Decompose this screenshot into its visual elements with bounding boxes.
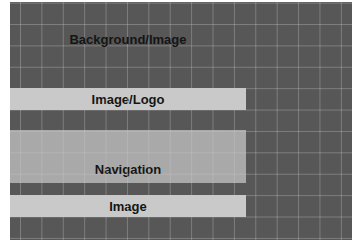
image-label: Image xyxy=(109,199,147,214)
image-block: Image xyxy=(10,195,246,217)
image-logo-label: Image/Logo xyxy=(92,92,165,107)
background-image-label: Background/Image xyxy=(10,32,246,47)
navigation-block: Navigation xyxy=(10,130,246,183)
background-image-region: Background/Image Image/Logo Navigation I… xyxy=(10,2,352,240)
navigation-label: Navigation xyxy=(95,162,161,177)
image-logo-block: Image/Logo xyxy=(10,88,246,110)
